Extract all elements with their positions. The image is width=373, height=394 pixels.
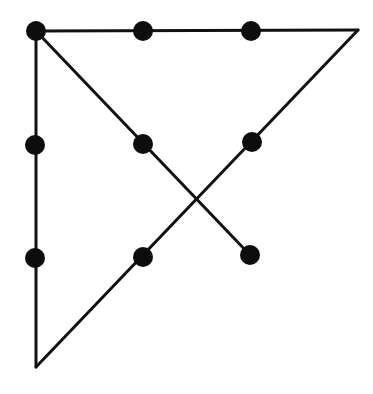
line-1-top xyxy=(36,30,358,31)
dot-r1c3 xyxy=(241,21,261,41)
dot-r3c1 xyxy=(25,248,45,268)
connecting-lines xyxy=(36,30,358,367)
dot-r2c2 xyxy=(133,134,153,154)
diagram-canvas: Nine-dot puzzle solution xyxy=(0,0,373,394)
dot-r1c1 xyxy=(26,21,46,41)
dot-r3c2 xyxy=(133,247,153,267)
dot-r1c2 xyxy=(133,21,153,41)
dot-r3c3 xyxy=(240,245,260,265)
nine-dot-diagram xyxy=(0,0,373,394)
dot-r2c1 xyxy=(25,135,45,155)
dot-r2c3 xyxy=(242,132,262,152)
